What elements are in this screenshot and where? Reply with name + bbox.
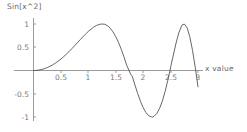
x-tick-label: 0.5 [55,73,67,82]
x-tick-label: 1 [86,73,91,82]
y-tick-label: -1 [22,113,30,122]
y-tick-label: 1 [24,20,29,29]
plot-figure: Sin[x^2] 0.5 1 1.5 2 2.5 3 [0,0,247,132]
x-tick-labels: 0.5 1 1.5 2 2.5 3 [55,73,201,82]
x-tick-label: 1.5 [110,73,122,82]
y-tick-label: 0.5 [17,43,29,52]
x-tick-label: 2 [141,73,146,82]
x-axis-label: x value [205,64,234,73]
x-tick-label: 2.5 [165,73,177,82]
y-tick-label: -0.5 [14,90,29,99]
